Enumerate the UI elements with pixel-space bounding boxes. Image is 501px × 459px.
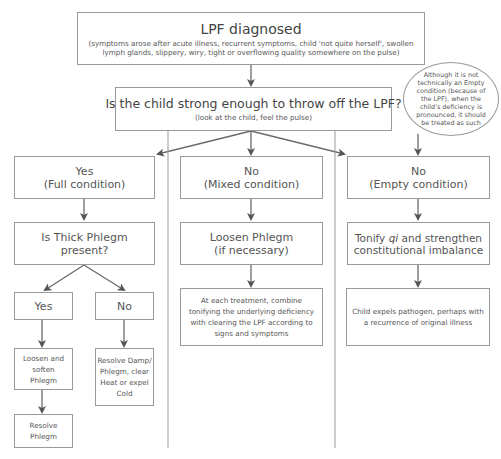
loosen-soften-phlegm-box: Loosen and soften Phlegm <box>14 348 73 390</box>
combine-treatment-text: At each treatment, combine tonifying the… <box>186 295 318 339</box>
loosen-phlegm-box: Loosen Phlegm (if necessary) <box>180 222 323 265</box>
tonify-line1: Tonify qi and strengthen <box>355 232 482 244</box>
full-label-line2: (Full condition) <box>44 178 126 191</box>
root-title: LPF diagnosed <box>200 21 301 37</box>
thick-phlegm-line1: Is Thick Phlegm <box>41 231 127 244</box>
tonify-pre: Tonify <box>355 232 389 244</box>
question-subtitle: (look at the child, feel the pulse) <box>195 113 312 122</box>
mixed-label-line1: No <box>244 165 259 178</box>
mixed-condition-box: No (Mixed condition) <box>180 156 323 199</box>
thick-phlegm-no-label: No <box>117 300 132 313</box>
mixed-label-line2: (Mixed condition) <box>204 178 299 191</box>
resolve-phlegm-text: Resolve Phlegm <box>20 420 68 442</box>
combine-treatment-box: At each treatment, combine tonifying the… <box>180 288 323 346</box>
thick-phlegm-question-box: Is Thick Phlegm present? <box>14 222 155 265</box>
root-subtitle-line1: (symptoms arose after acute illness, rec… <box>88 39 413 48</box>
child-expels-box: Child expels pathogen, perhaps with a re… <box>346 288 490 346</box>
loosen-phlegm-line1: Loosen Phlegm <box>210 231 294 244</box>
root-subtitle-line2: lymph glands, slippery, wiry, tight or o… <box>103 48 400 57</box>
lpf-diagnosed-box: LPF diagnosed (symptoms arose after acut… <box>77 12 425 65</box>
resolve-damp-box: Resolve Damp/ Phlegm, clear Heat or expe… <box>95 348 154 406</box>
tonify-line2: constitutional imbalance <box>354 244 483 256</box>
thick-phlegm-no-box: No <box>95 292 154 320</box>
tonify-qi-italic: qi <box>389 232 399 244</box>
child-expels-text: Child expels pathogen, perhaps with a re… <box>349 306 487 328</box>
resolve-phlegm-box: Resolve Phlegm <box>14 414 73 448</box>
question-title: Is the child strong enough to throw off … <box>105 96 401 111</box>
full-condition-box: Yes (Full condition) <box>14 156 155 199</box>
tonify-qi-box: Tonify qi and strengthen constitutional … <box>347 222 490 265</box>
resolve-damp-text: Resolve Damp/ Phlegm, clear Heat or expe… <box>97 355 153 399</box>
child-strength-question-box: Is the child strong enough to throw off … <box>115 87 392 131</box>
empty-condition-note: Although it is not technically an Empty … <box>403 62 499 136</box>
thick-phlegm-yes-label: Yes <box>35 300 53 313</box>
empty-condition-box: No (Empty condition) <box>347 156 490 199</box>
tonify-post: and strengthen <box>398 232 482 244</box>
thick-phlegm-yes-box: Yes <box>14 292 73 320</box>
empty-label-line1: No <box>411 165 426 178</box>
loosen-soften-text: Loosen and soften Phlegm <box>20 353 68 386</box>
empty-label-line2: (Empty condition) <box>369 178 467 191</box>
loosen-phlegm-line2: (if necessary) <box>214 244 289 257</box>
full-label-line1: Yes <box>76 165 94 178</box>
note-text: Although it is not technically an Empty … <box>414 71 488 127</box>
thick-phlegm-line2: present? <box>61 244 109 257</box>
